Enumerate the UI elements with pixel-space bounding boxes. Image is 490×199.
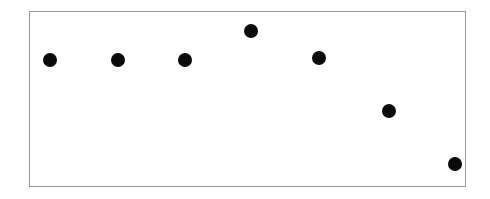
data-point [382, 104, 396, 118]
data-point [111, 53, 125, 67]
data-point [244, 24, 258, 38]
data-point [178, 53, 192, 67]
data-point [43, 53, 57, 67]
data-point [448, 157, 462, 171]
chart-canvas [0, 0, 490, 199]
data-point [312, 51, 326, 65]
